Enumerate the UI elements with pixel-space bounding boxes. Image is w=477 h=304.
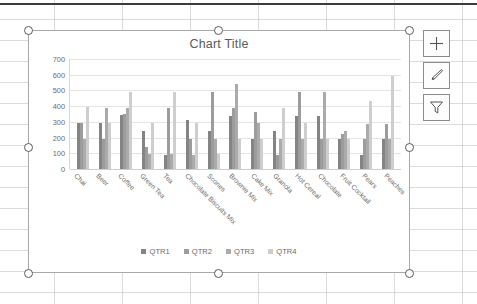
bar-group[interactable] [72, 59, 94, 169]
y-axis-tick-label: 500 [53, 86, 65, 95]
y-axis-tick-label: 700 [53, 55, 65, 64]
plus-icon [428, 35, 445, 52]
ribbon-bottom-edge [0, 3, 477, 5]
legend-swatch [226, 249, 231, 254]
legend-item[interactable]: QTR3 [226, 247, 254, 256]
legend-label: QTR2 [192, 247, 212, 256]
x-axis-category-labels[interactable]: ChaiBeerCoffeeGreen TeaTeaChocolate Bisc… [69, 170, 427, 245]
y-axis-tick-label: 600 [53, 70, 65, 79]
x-axis-label: Scones [206, 172, 227, 193]
legend-label: QTR3 [234, 247, 254, 256]
x-axis-label: Pears [361, 172, 379, 190]
x-axis-label: Peaches [383, 172, 407, 196]
bar-qtr4[interactable] [217, 154, 220, 169]
chart-styles-button[interactable] [423, 62, 450, 89]
bar-group[interactable] [137, 59, 159, 169]
y-axis-tick-label: 0 [61, 165, 65, 174]
bar-group[interactable] [268, 59, 290, 169]
plot-area[interactable] [69, 59, 401, 169]
bar-qtr4[interactable] [369, 101, 372, 169]
plot-wrapper: 0100200300400500600700 [43, 59, 401, 169]
bar-group[interactable] [312, 59, 334, 169]
bar-group[interactable] [94, 59, 116, 169]
y-axis-tick-label: 400 [53, 102, 65, 111]
y-axis-tick-label: 200 [53, 133, 65, 142]
bar-qtr4[interactable] [86, 107, 89, 169]
x-axis-label: Beer [95, 172, 110, 187]
bar-qtr4[interactable] [347, 139, 350, 169]
bar-group[interactable] [203, 59, 225, 169]
bar-qtr4[interactable] [282, 108, 285, 169]
selection-handle-top-right[interactable] [405, 26, 414, 35]
selection-handle-bottom-center[interactable] [214, 269, 223, 278]
legend-item[interactable]: QTR4 [268, 247, 296, 256]
bar-group[interactable] [159, 59, 181, 169]
legend-swatch [184, 249, 189, 254]
x-axis-label: Chai [73, 172, 88, 187]
bar-qtr4[interactable] [195, 123, 198, 169]
chart-filters-button[interactable] [423, 94, 450, 121]
bar-qtr4[interactable] [173, 92, 176, 169]
bar-group[interactable] [334, 59, 356, 169]
chart-title[interactable]: Chart Title [29, 37, 409, 51]
selection-handle-bottom-right[interactable] [405, 269, 414, 278]
bar-qtr4[interactable] [108, 123, 111, 169]
bar-group[interactable] [246, 59, 268, 169]
y-axis-tick-label: 100 [53, 149, 65, 158]
legend-item[interactable]: QTR2 [184, 247, 212, 256]
bar-group[interactable] [225, 59, 247, 169]
x-axis-label: Granola [272, 172, 294, 194]
funnel-icon [428, 99, 445, 116]
x-axis-label: Tea [162, 172, 175, 185]
legend-label: QTR4 [276, 247, 296, 256]
bar-qtr4[interactable] [304, 123, 307, 169]
legend-label: QTR1 [149, 247, 169, 256]
selection-handle-middle-right[interactable] [405, 143, 414, 152]
bar-qtr4[interactable] [151, 123, 154, 169]
paintbrush-icon [428, 67, 445, 84]
chart-legend[interactable]: QTR1QTR2QTR3QTR4 [29, 247, 409, 256]
selection-handle-top-left[interactable] [24, 26, 33, 35]
bar-qtr4[interactable] [326, 139, 329, 169]
legend-swatch [141, 249, 146, 254]
selection-handle-middle-left[interactable] [24, 143, 33, 152]
selection-handle-top-center[interactable] [214, 26, 223, 35]
bar-group[interactable] [181, 59, 203, 169]
bar-series-container[interactable] [70, 59, 401, 169]
bar-group[interactable] [290, 59, 312, 169]
bar-group[interactable] [355, 59, 377, 169]
legend-swatch [268, 249, 273, 254]
y-axis-tick-label: 300 [53, 117, 65, 126]
bar-group[interactable] [116, 59, 138, 169]
chart-quick-tools [423, 30, 450, 121]
y-axis[interactable]: 0100200300400500600700 [43, 59, 67, 169]
chart-object[interactable]: Chart Title 0100200300400500600700 ChaiB… [28, 30, 410, 273]
bar-qtr4[interactable] [129, 92, 132, 169]
x-axis-label: Coffee [117, 172, 136, 191]
bar-qtr4[interactable] [238, 139, 241, 169]
bar-group[interactable] [377, 59, 399, 169]
chart-elements-button[interactable] [423, 30, 450, 57]
bar-qtr4[interactable] [260, 139, 263, 169]
bar-qtr4[interactable] [391, 76, 394, 169]
legend-item[interactable]: QTR1 [141, 247, 169, 256]
selection-handle-bottom-left[interactable] [24, 269, 33, 278]
